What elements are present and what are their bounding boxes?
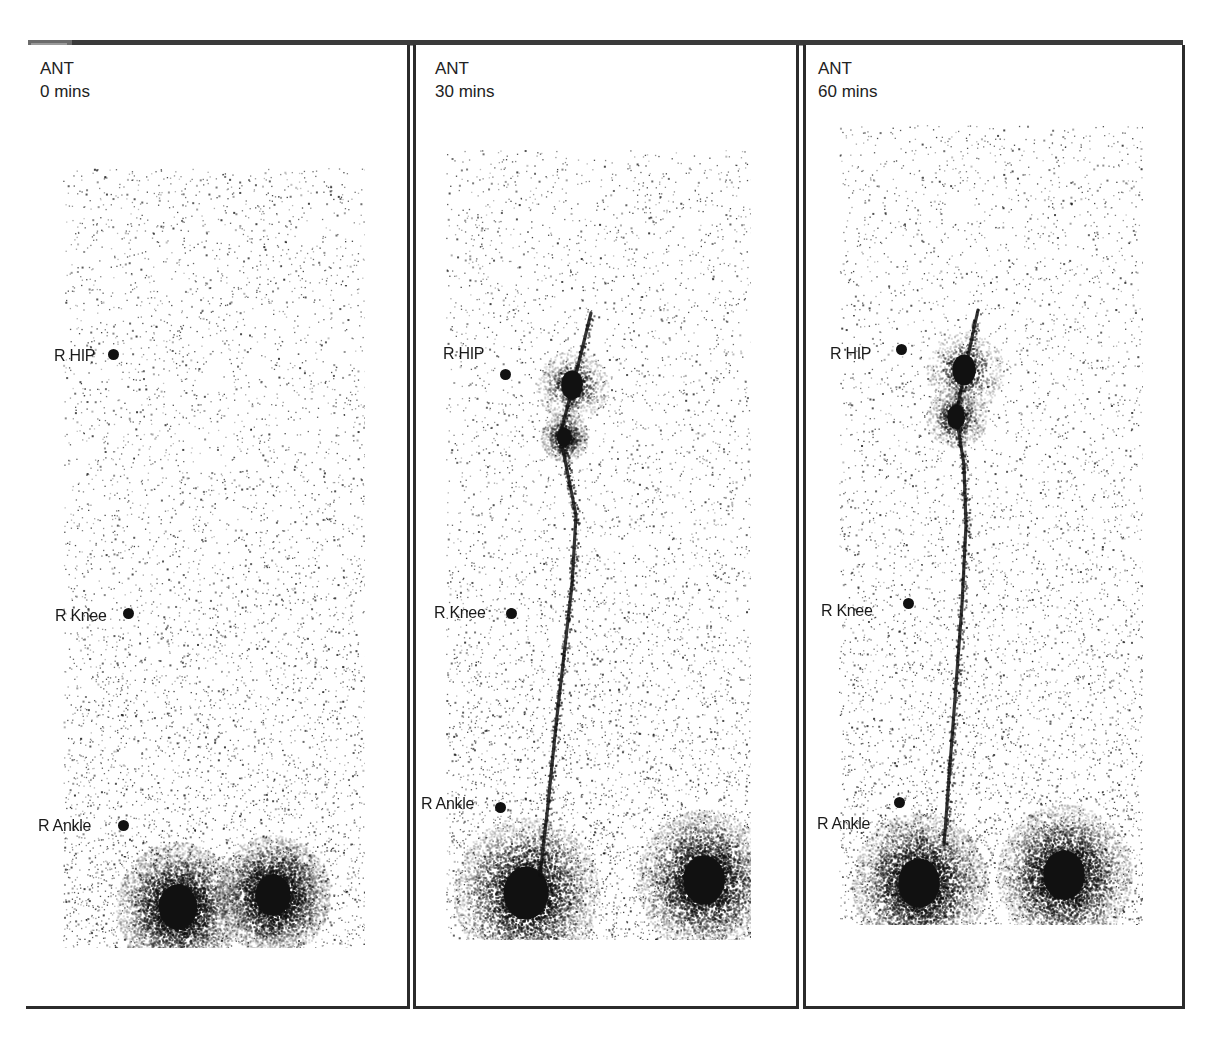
marker-dot — [896, 344, 907, 355]
panel-30-mins: ANT 30 mins R HIPR KneeR Ankle — [413, 45, 799, 1009]
view-label: ANT — [40, 57, 90, 80]
marker-dot — [500, 369, 511, 380]
marker-label-r-ankle: R Ankle — [817, 815, 870, 833]
marker-label-r-knee: R Knee — [55, 607, 107, 625]
marker-dot — [506, 608, 517, 619]
view-label: ANT — [435, 57, 495, 80]
panel-caption: ANT 30 mins — [435, 57, 495, 103]
time-label: 0 mins — [40, 80, 90, 103]
marker-dot — [123, 608, 134, 619]
marker-dot — [894, 797, 905, 808]
marker-label-r-knee: R Knee — [821, 602, 873, 620]
scintigraphy-scan — [63, 168, 365, 948]
scintigraphy-scan — [839, 125, 1143, 925]
marker-label-r-ankle: R Ankle — [421, 795, 474, 813]
panel-60-mins: ANT 60 mins R HIPR KneeR Ankle — [803, 45, 1185, 1009]
marker-label-r-ankle: R Ankle — [38, 817, 91, 835]
marker-label-r-hip: R HIP — [54, 347, 95, 365]
marker-label-r-hip: R HIP — [830, 345, 871, 363]
marker-label-r-knee: R Knee — [434, 604, 486, 622]
time-label: 60 mins — [818, 80, 878, 103]
marker-label-r-hip: R HIP — [443, 345, 484, 363]
panel-caption: ANT 0 mins — [40, 57, 90, 103]
marker-dot — [903, 598, 914, 609]
panel-0-mins: ANT 0 mins R HIPR KneeR Ankle — [26, 45, 410, 1009]
marker-dot — [118, 820, 129, 831]
view-label: ANT — [818, 57, 878, 80]
marker-dot — [495, 802, 506, 813]
marker-dot — [108, 349, 119, 360]
panel-caption: ANT 60 mins — [818, 57, 878, 103]
panel-bottom-rule — [32, 1006, 410, 1009]
time-label: 30 mins — [435, 80, 495, 103]
scintigraphy-scan — [446, 150, 751, 940]
